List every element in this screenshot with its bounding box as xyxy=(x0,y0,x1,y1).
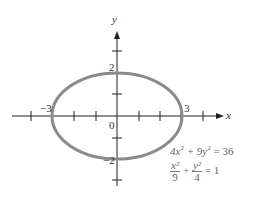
equation-standard: 4x2 + 9y2 = 36 xyxy=(170,145,233,157)
x-axis-arrow-icon xyxy=(216,113,224,119)
y-axis-label: y xyxy=(112,14,117,25)
x-pos-label: 3 xyxy=(184,103,190,114)
y-pos-label: 2 xyxy=(109,62,115,73)
origin-label: 0 xyxy=(109,120,115,131)
x-neg-label: −3 xyxy=(40,103,52,114)
x-axis-label: x xyxy=(226,110,231,121)
y-neg-label: −2 xyxy=(103,155,115,166)
y-axis-arrow-icon xyxy=(114,31,120,39)
equation-normalized: x²9 + y²4 = 1 xyxy=(170,160,219,183)
